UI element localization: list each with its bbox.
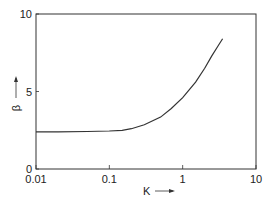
y-tick-label: 10 (20, 8, 32, 20)
y-tick-label: 5 (26, 86, 32, 98)
x-tick-label: 0.1 (102, 173, 117, 185)
plot-frame (36, 14, 256, 169)
x-axis-arrow-icon (155, 189, 175, 193)
x-axis-label: K (143, 185, 151, 197)
x-tick-label: 10 (250, 173, 262, 185)
x-tick-label: 1 (180, 173, 186, 185)
y-axis-arrow-icon (14, 76, 18, 98)
y-axis-label: β (10, 105, 22, 111)
y-tick-label: 0 (26, 163, 32, 175)
x-axis-ticks: 0.010.1110 (25, 165, 262, 185)
chart: 0.010.1110 0510 K β (0, 0, 273, 203)
data-line (36, 39, 223, 132)
